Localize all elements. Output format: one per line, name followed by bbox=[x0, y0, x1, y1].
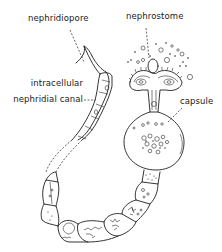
nephrostome-leader bbox=[146, 28, 149, 58]
label-nephridial-canal-line2: nephridial canal bbox=[6, 94, 83, 104]
nephridiopore-duct bbox=[76, 46, 106, 74]
label-nephridiopore: nephridiopore bbox=[28, 13, 89, 23]
label-nephrostome: nephrostome bbox=[126, 11, 183, 21]
nephridium-diagram bbox=[0, 0, 222, 252]
label-capsule: capsule bbox=[180, 96, 213, 106]
capsule-granules bbox=[142, 134, 169, 154]
leader-lines bbox=[70, 28, 182, 122]
capsule-leader bbox=[168, 108, 182, 122]
tubule-cells bbox=[41, 170, 160, 242]
capsule bbox=[124, 112, 184, 170]
coelomic-particles bbox=[127, 42, 192, 79]
label-intracellular-line1: intracellular bbox=[22, 78, 83, 88]
